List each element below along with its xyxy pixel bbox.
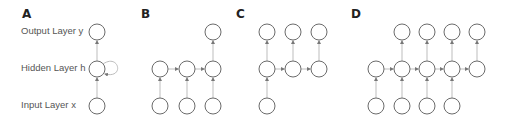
hidden-node-b bbox=[205, 61, 221, 77]
hidden-node-d bbox=[419, 61, 435, 77]
hidden-node-b bbox=[179, 61, 195, 77]
input-node-b bbox=[152, 98, 168, 114]
hidden-node-d bbox=[394, 61, 410, 77]
hidden-node-c bbox=[285, 61, 301, 77]
hidden-node-d bbox=[469, 61, 485, 77]
hidden-node-d bbox=[368, 61, 384, 77]
hidden-node-b bbox=[152, 61, 168, 77]
output-node-c bbox=[259, 24, 275, 40]
input-node-d bbox=[394, 98, 410, 114]
input-node-b bbox=[205, 98, 221, 114]
input-node-c bbox=[259, 98, 275, 114]
hidden-node-c bbox=[311, 61, 327, 77]
output-node-a bbox=[89, 24, 105, 40]
hidden-node-c bbox=[259, 61, 275, 77]
output-node-d bbox=[444, 24, 460, 40]
output-node-b bbox=[205, 24, 221, 40]
input-node-a bbox=[89, 98, 105, 114]
output-node-d bbox=[419, 24, 435, 40]
hidden-node-d bbox=[444, 61, 460, 77]
output-node-d bbox=[469, 24, 485, 40]
input-node-b bbox=[179, 98, 195, 114]
input-node-d bbox=[419, 98, 435, 114]
input-node-d bbox=[444, 98, 460, 114]
input-node-d bbox=[368, 98, 384, 114]
output-node-d bbox=[394, 24, 410, 40]
rnn-diagram bbox=[0, 0, 509, 122]
output-node-c bbox=[311, 24, 327, 40]
output-node-c bbox=[285, 24, 301, 40]
hidden-node-a bbox=[89, 61, 105, 77]
